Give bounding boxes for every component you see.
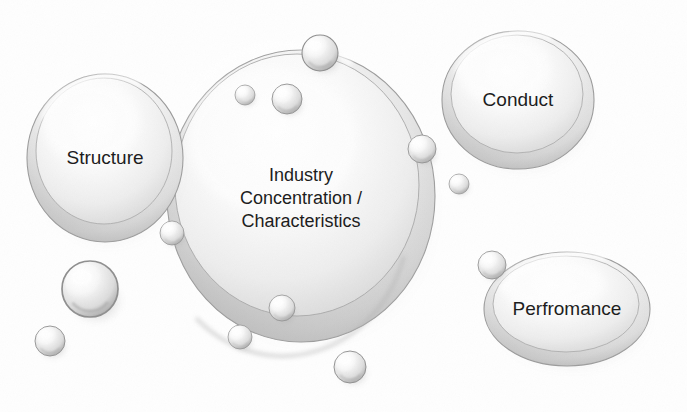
conduct-bubble-label: Conduct bbox=[483, 89, 554, 110]
droplet-right-upper-specular bbox=[413, 139, 423, 146]
droplet-right-lower-specular bbox=[452, 177, 459, 182]
droplet-top-rim-specular bbox=[308, 41, 321, 50]
diagram-canvas: Industry Concentration / Characteristics… bbox=[0, 0, 687, 412]
structure-bubble-label: Structure bbox=[66, 147, 143, 168]
droplet-top-inner-small-specular bbox=[238, 88, 245, 93]
droplet-lower-left-tiny-specular bbox=[40, 331, 51, 339]
droplet-top-inner-big-specular bbox=[277, 89, 288, 97]
droplet-left-rim-specular bbox=[164, 225, 173, 231]
droplet-performance-rim-specular bbox=[483, 255, 493, 262]
performance-bubble-label: Perfromance bbox=[513, 298, 622, 319]
center-bubble-label-line-3: Characteristics bbox=[241, 211, 360, 231]
bubble-diagram-svg: Industry Concentration / Characteristics… bbox=[0, 0, 687, 412]
droplet-below-center-specular bbox=[339, 356, 351, 364]
droplet-lower-left-big-specular bbox=[72, 270, 92, 285]
droplet-bottom-rim-specular bbox=[232, 329, 241, 335]
center-bubble-label-line-2: Concentration / bbox=[240, 188, 362, 208]
center-bubble-label-line-1: Industry bbox=[269, 165, 333, 185]
droplet-inner-bottom-specular bbox=[273, 299, 282, 306]
